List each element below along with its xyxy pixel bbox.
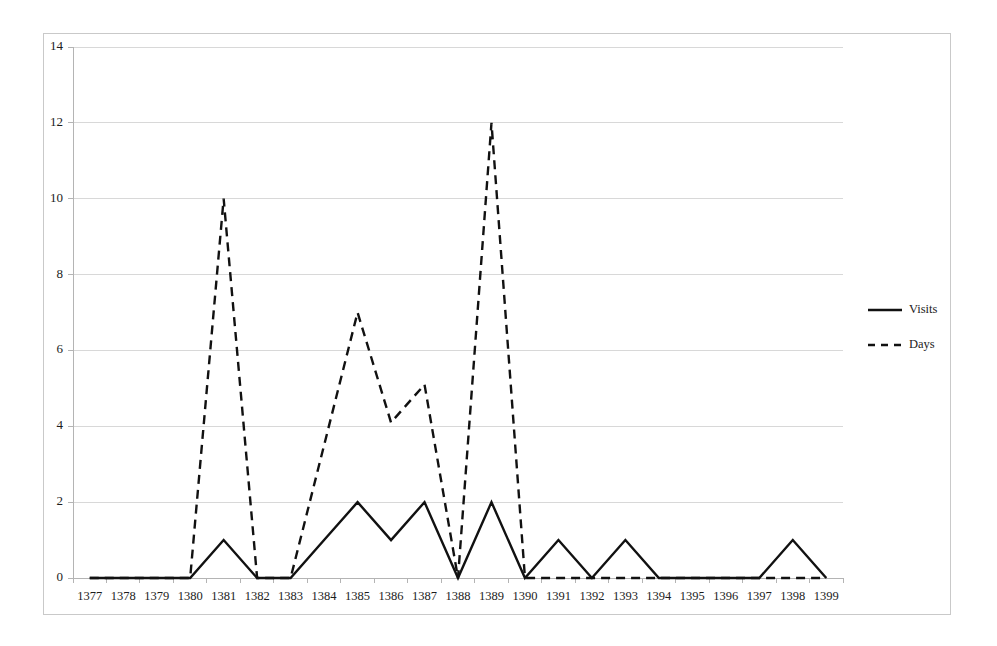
x-axis-tick-label: 1383	[278, 589, 303, 603]
y-axis-tick-label: 14	[50, 38, 64, 53]
legend-label-days[interactable]: Days	[909, 337, 935, 351]
y-axis-tick-label: 8	[57, 266, 64, 281]
series-line-visits	[90, 502, 827, 578]
x-axis-tick-label: 1390	[512, 589, 537, 603]
x-axis-tick-label: 1385	[345, 589, 370, 603]
x-axis-tick-label: 1379	[144, 589, 169, 603]
y-axis-tick-label: 6	[57, 341, 64, 356]
x-axis-tick-label: 1389	[479, 589, 504, 603]
x-axis-tick-label: 1391	[546, 589, 571, 603]
y-axis-tick-label: 12	[50, 114, 63, 129]
chart-legend: VisitsDays	[868, 302, 938, 351]
x-axis-tick-label: 1377	[77, 589, 102, 603]
x-axis-tick-label: 1387	[412, 589, 437, 603]
y-axis-labels: 02468101214	[50, 38, 64, 584]
x-axis-tick-label: 1392	[579, 589, 604, 603]
x-axis-tick-label: 1396	[713, 589, 738, 603]
gridline-group	[73, 47, 843, 578]
y-axis-tick-label: 0	[57, 569, 64, 584]
chart-canvas: 02468101214 1377137813791380138113821383…	[0, 0, 997, 646]
x-axis-tick-label: 1381	[211, 589, 236, 603]
x-axis-tick-label: 1399	[814, 589, 839, 603]
x-axis-tick-label: 1395	[680, 589, 705, 603]
x-axis-labels: 1377137813791380138113821383138413851386…	[77, 589, 839, 603]
legend-label-visits[interactable]: Visits	[909, 302, 938, 316]
x-axis-tick-label: 1378	[111, 589, 136, 603]
y-axis-tick-label: 4	[57, 417, 64, 432]
x-axis-tick-label: 1397	[747, 589, 772, 603]
x-axis-tick-label: 1388	[446, 589, 471, 603]
y-axis-tick-label: 2	[57, 493, 64, 508]
chart-container: 02468101214 1377137813791380138113821383…	[0, 0, 997, 646]
x-axis-tick-label: 1384	[312, 589, 338, 603]
x-axis-tick-label: 1394	[646, 589, 672, 603]
y-axis-tick-label: 10	[50, 190, 63, 205]
x-axis-tick-label: 1393	[613, 589, 638, 603]
x-axis-tick-label: 1380	[178, 589, 203, 603]
x-axis-tick-label: 1386	[379, 589, 404, 603]
x-axis-tick-label: 1398	[780, 589, 805, 603]
x-axis-tick-label: 1382	[245, 589, 270, 603]
